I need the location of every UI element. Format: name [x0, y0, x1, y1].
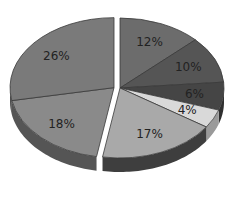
slice-label: 4%: [178, 103, 197, 117]
slice-label: 17%: [136, 127, 163, 141]
slice-label: 12%: [136, 35, 163, 49]
slice-label: 10%: [175, 60, 202, 74]
slice-label: 6%: [185, 87, 204, 101]
slice-label: 18%: [48, 117, 75, 131]
slice-label: 26%: [43, 49, 70, 63]
pie-chart: 12%10%6%4%17%18%26%: [0, 0, 239, 198]
